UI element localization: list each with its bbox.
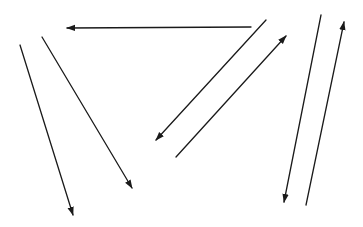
arrow-1-arrow-icon [20, 45, 73, 215]
arrows-group [20, 15, 344, 215]
arrow-diagram [0, 0, 363, 227]
arrow-6-arrow-icon [284, 15, 321, 202]
arrow-2-arrow-icon [42, 37, 132, 188]
arrow-4-arrow-icon [156, 20, 266, 140]
arrow-7-arrow-icon [306, 22, 344, 205]
arrow-5-arrow-icon [176, 36, 286, 157]
arrow-3-arrow-icon [67, 27, 251, 28]
